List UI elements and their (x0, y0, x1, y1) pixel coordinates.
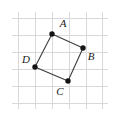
figure-canvas: ABCD (0, 0, 119, 117)
geometry-figure: ABCD (0, 0, 119, 117)
vertex-point-d (32, 64, 37, 69)
vertex-point-c (65, 78, 70, 83)
vertex-label-c: C (56, 85, 64, 97)
vertex-point-a (49, 31, 54, 36)
vertex-label-a: A (59, 17, 67, 29)
vertex-label-d: D (21, 53, 30, 65)
vertex-point-b (80, 45, 85, 50)
vertex-label-b: B (88, 50, 95, 62)
